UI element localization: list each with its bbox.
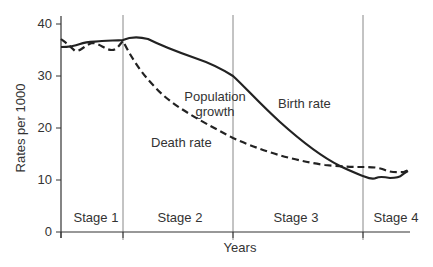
stage-label-3: Stage 3 xyxy=(274,210,319,225)
x-ticks xyxy=(61,232,363,238)
y-axis-label: Rates per 1000 xyxy=(13,84,28,173)
stage-label-1: Stage 1 xyxy=(74,210,119,225)
y-ticks xyxy=(56,24,61,180)
chart-canvas: 40 30 20 10 0 Rates per 1000 Years Stage… xyxy=(0,0,433,267)
stage-label-4: Stage 4 xyxy=(374,210,419,225)
death-rate-label: Death rate xyxy=(151,135,212,150)
ytick-label-40: 40 xyxy=(38,16,52,31)
population-growth-label-line2: growth xyxy=(195,104,234,119)
stage-label-2: Stage 2 xyxy=(158,210,203,225)
population-growth-label-line1: Population xyxy=(184,89,245,104)
birth-rate-label: Birth rate xyxy=(278,96,331,111)
ytick-label-0: 0 xyxy=(45,224,52,239)
x-axis-label: Years xyxy=(224,240,257,255)
ytick-label-20: 20 xyxy=(38,120,52,135)
ytick-label-10: 10 xyxy=(38,172,52,187)
ytick-label-30: 30 xyxy=(38,68,52,83)
death-rate-line xyxy=(61,39,410,172)
